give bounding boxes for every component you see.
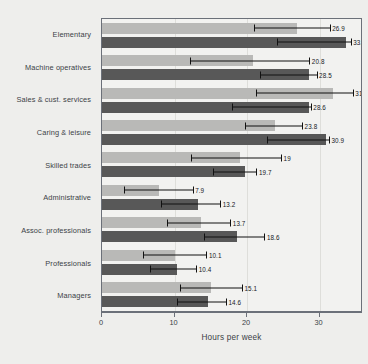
bar-row: 30.9 xyxy=(102,134,361,145)
error-bar xyxy=(191,157,281,158)
value-label: 30.9 xyxy=(331,136,344,143)
bar-group: 7.913.2 xyxy=(102,181,361,213)
bar-row: 18.6 xyxy=(102,231,361,242)
bar-row: 28.5 xyxy=(102,69,361,80)
error-bar-cap xyxy=(353,90,354,97)
error-bar xyxy=(245,125,302,126)
bar-row: 10.4 xyxy=(102,264,361,275)
error-bar-cap xyxy=(330,25,331,32)
error-bar-cap xyxy=(309,57,310,64)
category-label: Administrative xyxy=(0,181,96,214)
error-bar-cap xyxy=(302,122,303,129)
value-label: 13.7 xyxy=(233,219,246,226)
category-axis: ElementaryMachine operativesSales & cust… xyxy=(0,18,96,312)
error-bar-cap xyxy=(220,201,221,208)
bar-row: 31.9 xyxy=(102,88,361,99)
error-bar-cap xyxy=(177,298,178,305)
error-bar-cap xyxy=(232,104,233,111)
value-label: 28.6 xyxy=(313,104,326,111)
error-bar xyxy=(267,139,329,140)
error-bar-cap xyxy=(161,201,162,208)
value-label: 18.6 xyxy=(267,233,280,240)
error-bar xyxy=(180,287,242,288)
bar-row: 15.1 xyxy=(102,282,361,293)
error-bar xyxy=(143,255,207,256)
bar-chart: ElementaryMachine operativesSales & cust… xyxy=(0,0,368,364)
error-bar xyxy=(204,236,264,237)
error-bar-cap xyxy=(311,104,312,111)
category-label: Sales & cust. services xyxy=(0,83,96,116)
bar-row: 10.1 xyxy=(102,250,361,261)
bar-group: 31.928.6 xyxy=(102,84,361,116)
category-label: Managers xyxy=(0,279,96,312)
value-label: 20.8 xyxy=(312,57,325,64)
error-bar xyxy=(167,222,230,223)
error-bar-cap xyxy=(267,136,268,143)
error-bar xyxy=(232,107,311,108)
category-label: Elementary xyxy=(0,18,96,51)
x-tick-label: 30 xyxy=(314,318,322,327)
x-tick-label: 0 xyxy=(99,318,103,327)
error-bar-cap xyxy=(254,25,255,32)
category-label: Professionals xyxy=(0,247,96,280)
error-bar xyxy=(150,269,196,270)
error-bar-cap xyxy=(190,57,191,64)
error-bar-cap xyxy=(191,154,192,161)
category-label: Caring & leisure xyxy=(0,116,96,149)
bar-group: 15.114.6 xyxy=(102,279,361,311)
bar-row: 13.2 xyxy=(102,199,361,210)
error-bar xyxy=(260,74,317,75)
error-bar-cap xyxy=(143,252,144,259)
error-bar-cap xyxy=(242,284,243,291)
error-bar-cap xyxy=(281,154,282,161)
error-bar xyxy=(124,190,193,191)
value-label: 7.9 xyxy=(195,187,204,194)
error-bar-cap xyxy=(256,90,257,97)
error-bar-cap xyxy=(124,187,125,194)
value-label: 14.6 xyxy=(228,298,241,305)
bar-row: 13.7 xyxy=(102,217,361,228)
error-bar-cap xyxy=(351,39,352,46)
bar-group: 20.828.5 xyxy=(102,51,361,83)
error-bar-cap xyxy=(193,187,194,194)
error-bar-cap xyxy=(329,136,330,143)
error-bar xyxy=(277,42,350,43)
bar-row: 19.7 xyxy=(102,166,361,177)
bar-row: 33.6 xyxy=(102,37,361,48)
error-bar-cap xyxy=(264,233,265,240)
error-bar-cap xyxy=(204,233,205,240)
bar-row: 7.9 xyxy=(102,185,361,196)
plot-area: 26.933.620.828.531.928.623.830.91919.77.… xyxy=(101,18,362,312)
bar-groups: 26.933.620.828.531.928.623.830.91919.77.… xyxy=(102,19,361,311)
error-bar xyxy=(161,204,220,205)
value-label: 15.1 xyxy=(244,284,257,291)
bar-row: 14.6 xyxy=(102,296,361,307)
x-tick xyxy=(246,312,247,317)
bar-row: 19 xyxy=(102,152,361,163)
error-bar-cap xyxy=(256,168,257,175)
error-bar-cap xyxy=(317,71,318,78)
value-label: 10.4 xyxy=(199,266,212,273)
error-bar-cap xyxy=(196,266,197,273)
x-tick xyxy=(101,312,102,317)
error-bar-cap xyxy=(260,71,261,78)
error-bar-cap xyxy=(245,122,246,129)
x-tick xyxy=(174,312,175,317)
error-bar xyxy=(190,60,310,61)
bar-group: 10.110.4 xyxy=(102,246,361,278)
error-bar-cap xyxy=(277,39,278,46)
value-label: 26.9 xyxy=(332,25,345,32)
error-bar xyxy=(213,171,257,172)
value-label: 13.2 xyxy=(223,201,236,208)
x-tick-label: 20 xyxy=(242,318,250,327)
bar-row: 28.6 xyxy=(102,102,361,113)
value-label: 31.9 xyxy=(355,90,362,97)
error-bar xyxy=(256,93,352,94)
bar-group: 26.933.6 xyxy=(102,19,361,51)
value-label: 23.8 xyxy=(305,122,318,129)
value-label: 33.6 xyxy=(353,39,362,46)
value-label: 28.5 xyxy=(319,71,332,78)
bar-row: 26.9 xyxy=(102,23,361,34)
error-bar-cap xyxy=(213,168,214,175)
error-bar xyxy=(177,301,226,302)
